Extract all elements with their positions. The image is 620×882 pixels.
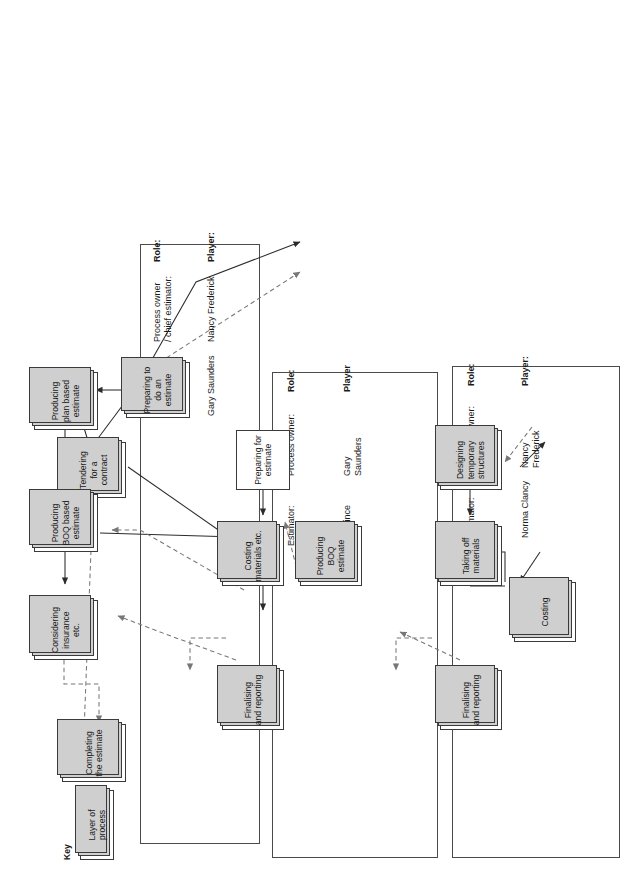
process-producing-boq-estimate[interactable]: Producing BOQ estimate [300, 526, 362, 586]
process-finalising-and-reporting-gary[interactable]: Finalising and reporting [222, 670, 284, 730]
process-label: Tendering for a contract [78, 446, 109, 494]
process-considering-insurance-etc[interactable]: Considering insurance etc. [34, 600, 98, 660]
process-completing-the-estimate[interactable]: Completing the estimate [62, 724, 126, 782]
process-label: Finalising and reporting [243, 674, 264, 726]
key-sample-box: Layer of process [80, 790, 114, 860]
lane3-player-1: Norma Clancy [520, 438, 531, 538]
process-finalising-and-reporting-norma[interactable]: Finalising and reporting [440, 670, 502, 730]
process-producing-boq-based-estimate[interactable]: Producing BOQ based estimate [34, 494, 98, 552]
process-label: Costing [540, 597, 550, 626]
process-designing-temporary-structures[interactable]: Designing temporary structures [440, 430, 502, 490]
process-label: Producing plan based estimate [50, 376, 81, 426]
process-costing-materials-etc[interactable]: Costing materials etc. [222, 526, 284, 586]
process-label: Taking off materials [461, 530, 482, 582]
process-label: Preparing to do an estimate [142, 366, 173, 414]
process-preparing-to-do-an-estimate[interactable]: Preparing to do an estimate [126, 362, 190, 418]
process-label: Preparing for estimate [253, 434, 274, 486]
process-label: Designing temporary structures [455, 434, 486, 486]
process-preparing-for-estimate[interactable]: Preparing for estimate [236, 430, 290, 490]
process-label: Producing BOQ estimate [315, 530, 346, 582]
process-label: Considering insurance etc. [50, 604, 81, 656]
process-label: Costing materials etc. [243, 530, 264, 582]
process-costing[interactable]: Costing [514, 582, 576, 642]
key-sample-label: Layer of process [87, 794, 108, 856]
lane1-player-1: Gary Saunders [206, 306, 217, 416]
wire-insurance-to-completing [64, 660, 99, 722]
process-label: Finalising and reporting [461, 674, 482, 726]
process-label: Producing BOQ based estimate [50, 498, 81, 548]
process-label: Completing the estimate [84, 728, 105, 778]
process-taking-off-materials[interactable]: Taking off materials [440, 526, 502, 586]
process-producing-plan-based-estimate[interactable]: Producing plan based estimate [34, 372, 98, 430]
key-title: Key [62, 844, 72, 860]
